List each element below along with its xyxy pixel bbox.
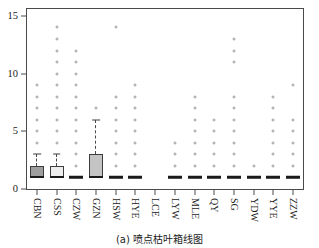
outlier-point	[292, 118, 295, 121]
outlier-point	[292, 84, 295, 87]
outlier-point	[193, 153, 196, 156]
outlier-point	[292, 164, 295, 167]
box-gzn	[89, 154, 103, 177]
outlier-point	[213, 141, 216, 144]
outlier-point	[193, 130, 196, 133]
outlier-point	[134, 84, 137, 87]
figure-caption: (a) 喷点枯叶箱线图	[0, 233, 319, 248]
outlier-point	[233, 153, 236, 156]
outlier-point	[75, 130, 78, 133]
y-tick-label: 5	[13, 126, 18, 136]
outlier-point	[55, 49, 58, 52]
whisker-cap-upper	[92, 119, 100, 120]
outlier-point	[272, 130, 275, 133]
y-tick-mark	[21, 131, 26, 132]
outlier-point	[292, 153, 295, 156]
outlier-point	[134, 130, 137, 133]
x-tick-label-text: CBN	[31, 198, 43, 219]
x-tick-label-text: QY	[208, 198, 220, 212]
outlier-point	[75, 164, 78, 167]
outlier-point	[193, 95, 196, 98]
outlier-point	[233, 164, 236, 167]
outlier-point	[55, 130, 58, 133]
outlier-point	[55, 107, 58, 110]
x-tick-mark	[234, 190, 235, 195]
outlier-point	[114, 95, 117, 98]
outlier-point	[134, 141, 137, 144]
x-tick-mark	[36, 190, 37, 195]
outlier-point	[233, 61, 236, 64]
outlier-point	[55, 95, 58, 98]
outlier-point	[134, 153, 137, 156]
x-tick-mark	[96, 190, 97, 195]
outlier-point	[134, 164, 137, 167]
x-tick-mark	[76, 190, 77, 195]
outlier-point	[233, 38, 236, 41]
outlier-point	[233, 95, 236, 98]
outlier-point	[213, 153, 216, 156]
flat-box-czw	[69, 176, 83, 179]
outlier-point	[75, 118, 78, 121]
median-line	[89, 176, 103, 178]
outlier-point	[55, 72, 58, 75]
whisker-cap-upper	[53, 154, 61, 155]
outlier-point	[134, 118, 137, 121]
whisker-upper	[95, 120, 97, 155]
y-axis: 051015	[0, 0, 26, 198]
median-line	[50, 176, 64, 178]
x-tick-mark	[56, 190, 57, 195]
x-tick-label-text: GZN	[90, 198, 102, 219]
flat-box-hsw	[109, 176, 123, 179]
outlier-point	[75, 72, 78, 75]
outlier-point	[55, 26, 58, 29]
flat-box-hye	[128, 176, 142, 179]
flat-box-mle	[188, 176, 202, 179]
flat-box-lyw	[168, 176, 182, 179]
outlier-point	[233, 130, 236, 133]
x-tick-label-text: HSW	[110, 198, 122, 220]
outlier-point	[75, 141, 78, 144]
outlier-point	[55, 61, 58, 64]
outlier-point	[173, 153, 176, 156]
outlier-point	[114, 107, 117, 110]
whisker-cap-upper	[33, 154, 41, 155]
outlier-point	[75, 153, 78, 156]
whisker-upper	[56, 154, 58, 166]
outlier-point	[55, 84, 58, 87]
outlier-point	[272, 107, 275, 110]
x-tick-mark	[273, 190, 274, 195]
outlier-point	[233, 107, 236, 110]
outlier-point	[35, 95, 38, 98]
y-tick-mark	[21, 73, 26, 74]
flat-box-yye	[266, 176, 280, 179]
x-tick-mark	[293, 190, 294, 195]
outlier-point	[292, 141, 295, 144]
outlier-point	[35, 84, 38, 87]
x-tick-label-text: YDW	[248, 198, 260, 222]
outlier-point	[55, 38, 58, 41]
outlier-point	[272, 153, 275, 156]
x-tick-label-text: SG	[228, 198, 240, 211]
outlier-point	[272, 164, 275, 167]
outlier-point	[114, 26, 117, 29]
flat-box-sg	[227, 176, 241, 179]
outlier-point	[35, 141, 38, 144]
y-tick-label: 15	[8, 11, 19, 21]
outlier-point	[213, 118, 216, 121]
outlier-point	[35, 118, 38, 121]
x-tick-mark	[155, 190, 156, 195]
outlier-point	[114, 118, 117, 121]
boxplot-figure: 051015 CBNCSSCZWGZNHSWHYELCELYWMLEQYSGYD…	[0, 0, 319, 248]
x-tick-mark	[135, 190, 136, 195]
x-tick-label-text: HYE	[129, 198, 141, 219]
outlier-point	[95, 107, 98, 110]
outlier-point	[114, 130, 117, 133]
outlier-point	[75, 61, 78, 64]
x-tick-label-text: LYW	[169, 198, 181, 220]
x-tick-mark	[115, 190, 116, 195]
outlier-point	[114, 153, 117, 156]
outlier-point	[233, 118, 236, 121]
outlier-point	[272, 118, 275, 121]
outlier-point	[134, 95, 137, 98]
outlier-point	[193, 107, 196, 110]
